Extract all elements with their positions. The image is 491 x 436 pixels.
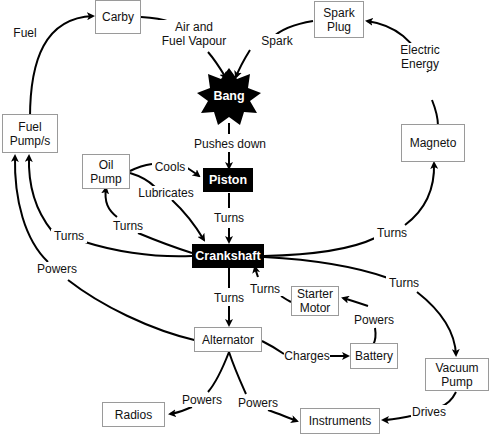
node-fuel-pump: Fuel Pump/s xyxy=(2,114,58,153)
edge-lubricates-2 xyxy=(172,200,204,240)
edge-label-lubricates: Lubricates xyxy=(136,186,196,200)
edge-label-pushes: Pushes down xyxy=(190,137,270,151)
edge-spark-2 xyxy=(236,50,250,77)
edge-label-powers-fuel: Powers xyxy=(35,262,79,276)
edge-powers-fuel xyxy=(68,280,198,341)
node-carby-label: Carby xyxy=(102,10,134,24)
node-instruments-label: Instruments xyxy=(309,414,372,428)
node-fuel-pump-label: Fuel Pump/s xyxy=(10,120,51,148)
node-alternator: Alternator xyxy=(194,327,262,352)
edge-drives-2 xyxy=(383,416,411,420)
node-carby: Carby xyxy=(95,0,141,34)
edge-starter-turns xyxy=(281,296,291,302)
edge-oil-turns-2 xyxy=(105,188,117,217)
node-crankshaft-label: Crankshaft xyxy=(195,249,260,263)
edge-label-air-fuel: Air and Fuel Vapour xyxy=(158,20,230,48)
edge-powers-fuel-2 xyxy=(15,156,48,262)
edge-label-oil-turns: Turns xyxy=(110,219,146,233)
node-battery-label: Battery xyxy=(355,349,393,363)
node-vacuum-pump-label: Vacuum Pump xyxy=(435,361,478,389)
edge-magneto-turns-2 xyxy=(405,163,434,225)
edge-label-fuel-turns: Turns xyxy=(51,229,87,243)
node-magneto-label: Magneto xyxy=(410,136,457,150)
edge-cools xyxy=(130,164,152,171)
node-alternator-label: Alternator xyxy=(202,333,254,347)
edge-label-instruments-powers: Powers xyxy=(236,396,280,410)
edge-label-vacuum-turns: Turns xyxy=(386,276,422,290)
node-crankshaft: Crankshaft xyxy=(192,244,264,268)
node-starter-motor: Starter Motor xyxy=(291,286,339,316)
edge-lubricates xyxy=(130,173,155,187)
node-oil-pump-label: Oil Pump xyxy=(90,158,121,186)
node-battery: Battery xyxy=(350,343,398,369)
node-spark-plug-label: Spark Plug xyxy=(323,6,354,34)
edge-instruments-2 xyxy=(268,410,297,421)
edge-radios xyxy=(208,352,229,392)
node-radios: Radios xyxy=(102,402,165,427)
edge-electric-2 xyxy=(432,100,438,126)
edge-magneto-turns xyxy=(264,238,375,256)
edge-starter-turns-2 xyxy=(255,267,258,277)
node-starter-motor-label: Starter Motor xyxy=(297,287,333,315)
edge-instruments xyxy=(229,352,246,394)
edge-battery-powers-2 xyxy=(343,298,368,306)
edge-label-piston-turns: Turns xyxy=(210,211,248,225)
node-bang-label: Bang xyxy=(199,89,259,103)
edge-vacuum-turns-2 xyxy=(417,292,456,355)
edge-charges xyxy=(262,341,284,354)
edge-vacuum-turns xyxy=(264,257,388,278)
edge-label-charges: Charges xyxy=(284,349,330,363)
edge-label-radios-powers: Powers xyxy=(180,393,224,407)
edge-oil-turns xyxy=(138,233,192,253)
node-radios-label: Radios xyxy=(115,408,152,422)
edge-label-spark: Spark xyxy=(257,34,297,48)
edge-air-fuel-2 xyxy=(208,52,226,78)
node-oil-pump: Oil Pump xyxy=(82,154,130,189)
node-instruments: Instruments xyxy=(300,408,380,434)
edge-label-battery-powers: Powers xyxy=(352,313,396,327)
edge-fuel-turns-2 xyxy=(29,156,52,231)
edge-label-cools: Cools xyxy=(152,160,188,174)
node-spark-plug: Spark Plug xyxy=(314,1,364,38)
node-piston-label: Piston xyxy=(209,173,247,187)
edge-label-drives: Drives xyxy=(411,405,447,419)
edge-label-fuel: Fuel xyxy=(5,26,45,40)
edge-fuel-turns xyxy=(85,242,192,256)
node-magneto: Magneto xyxy=(401,124,465,162)
edge-label-electric: Electric Energy xyxy=(393,43,447,71)
node-piston: Piston xyxy=(203,168,253,192)
edge-label-alt-turns: Turns xyxy=(210,291,248,305)
edge-label-starter-turns: Turns xyxy=(247,282,283,296)
node-vacuum-pump: Vacuum Pump xyxy=(425,358,489,391)
edge-label-magneto-turns: Turns xyxy=(374,226,410,240)
edge-radios-2 xyxy=(170,407,192,414)
